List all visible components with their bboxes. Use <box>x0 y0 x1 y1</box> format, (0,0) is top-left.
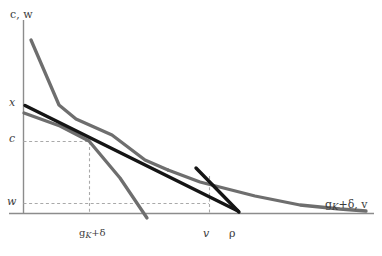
x-axis-title-tail: +δ, v <box>338 198 367 211</box>
x-axis-title: gK+δ, v <box>325 199 368 211</box>
figure-container: c, w gK+δ, v x c w gK+δ v ρ <box>0 0 382 256</box>
y-tick-label-x: x <box>9 97 15 108</box>
gray-frontier-upper <box>31 40 168 170</box>
x-axis-title-base: g <box>325 198 332 211</box>
x-tick-label-rho: ρ <box>229 228 235 239</box>
x-tick-label-v: v <box>203 228 209 239</box>
x-tick-gk-tail: +δ <box>91 227 105 238</box>
y-tick-label-c: c <box>9 133 15 144</box>
y-axis-title: c, w <box>10 9 33 20</box>
plot-canvas <box>0 0 382 256</box>
y-tick-label-w: w <box>7 196 16 207</box>
x-tick-label-gk-delta: gK+δ <box>79 228 106 240</box>
